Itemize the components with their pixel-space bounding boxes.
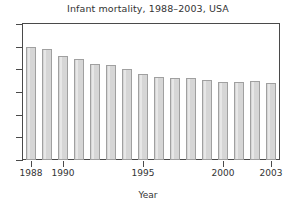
bar-highlight <box>156 78 158 159</box>
bar-highlight <box>140 75 142 159</box>
x-axis-label-2003: 2003 <box>260 168 283 178</box>
chart-title: Infant mortality, 1988–2003, USA <box>0 3 296 14</box>
bar-highlight <box>172 79 174 159</box>
bar-1997 <box>170 78 180 160</box>
x-axis-title: Year <box>0 190 296 200</box>
x-axis-label-1988: 1988 <box>20 168 43 178</box>
bar-1999 <box>202 80 212 160</box>
bar-highlight <box>188 79 190 159</box>
x-axis-tick-marks <box>23 161 279 168</box>
bar-highlight <box>44 50 46 159</box>
bar-series <box>23 24 279 160</box>
y-axis-tick <box>16 69 23 70</box>
bar-2003 <box>266 83 276 160</box>
bar-1991 <box>74 59 84 160</box>
bar-highlight <box>124 70 126 159</box>
bar-highlight <box>252 82 254 159</box>
bar-1988 <box>26 47 36 160</box>
x-axis-tick-labels: 19881990199520002003 <box>0 168 296 182</box>
bar-1992 <box>90 64 100 160</box>
x-axis-tick <box>63 161 64 167</box>
bar-1998 <box>186 78 196 160</box>
bar-1996 <box>154 77 164 160</box>
y-axis-tick <box>16 115 23 116</box>
x-axis-label-1995: 1995 <box>132 168 155 178</box>
bar-highlight <box>204 81 206 159</box>
x-axis-label-2000: 2000 <box>212 168 235 178</box>
x-axis-tick <box>271 161 272 167</box>
bar-1989 <box>42 49 52 160</box>
y-axis-tick <box>16 160 23 161</box>
bar-highlight <box>108 66 110 159</box>
bar-highlight <box>60 57 62 159</box>
bar-highlight <box>28 48 30 159</box>
bar-2001 <box>234 82 244 160</box>
y-axis-tick-marks <box>15 23 23 161</box>
bar-highlight <box>268 84 270 159</box>
x-axis-tick <box>223 161 224 167</box>
y-axis-tick <box>16 92 23 93</box>
bar-1994 <box>122 69 132 160</box>
bar-1995 <box>138 74 148 160</box>
bar-2000 <box>218 82 228 160</box>
bar-highlight <box>76 60 78 159</box>
bar-highlight <box>236 83 238 159</box>
x-axis-tick <box>31 161 32 167</box>
chart-figure: Infant mortality, 1988–2003, USA 1988199… <box>0 0 296 212</box>
bar-1990 <box>58 56 68 160</box>
x-axis-label-1990: 1990 <box>52 168 75 178</box>
y-axis-tick <box>16 24 23 25</box>
y-axis-tick <box>16 137 23 138</box>
bar-highlight <box>92 65 94 159</box>
bar-highlight <box>220 83 222 159</box>
bar-1993 <box>106 65 116 160</box>
bar-2002 <box>250 81 260 160</box>
x-axis-tick <box>143 161 144 167</box>
y-axis-tick <box>16 47 23 48</box>
